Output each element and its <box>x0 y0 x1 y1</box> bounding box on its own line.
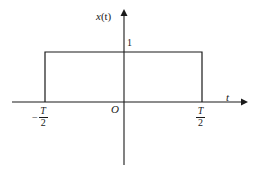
amplitude-label: 1 <box>127 38 132 48</box>
fraction-denominator: 2 <box>41 118 46 128</box>
y-axis-label: x(t) <box>96 11 111 22</box>
fraction-positive-half-t: T 2 <box>196 106 205 128</box>
y-axis-label-argument: (t) <box>101 10 111 22</box>
fraction-numerator: T <box>197 106 205 116</box>
fraction-denominator: 2 <box>198 118 203 128</box>
y-axis-arrowhead <box>121 9 128 16</box>
origin-label: O <box>111 104 119 115</box>
x-axis-arrowhead <box>241 98 248 105</box>
fraction-numerator: T <box>39 106 47 116</box>
tick-label-positive-half-t: T 2 <box>196 106 205 128</box>
x-axis-label: t <box>226 92 229 103</box>
plot-canvas <box>0 0 255 173</box>
minus-sign: − <box>32 112 39 123</box>
fraction-negative-half-t: T 2 <box>39 106 48 128</box>
tick-label-negative-half-t: − T 2 <box>32 106 48 128</box>
rectangular-pulse-figure: x(t) t O 1 − T 2 T 2 <box>0 0 255 173</box>
